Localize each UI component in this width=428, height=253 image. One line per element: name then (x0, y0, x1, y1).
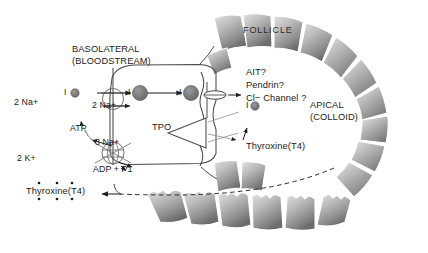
apical-label-line2: (COLLOID) (310, 112, 358, 123)
follicle-cell (214, 160, 241, 192)
follicle-cell (218, 192, 251, 228)
follicle-cell (252, 194, 283, 230)
apical-transporter-label-1: AIT? (246, 67, 266, 78)
two-sodium-symport-label: 2 Na+ (92, 100, 116, 110)
follicle-cell (183, 191, 219, 225)
follicle-label: FOLLICLE (243, 25, 293, 35)
follicle-cell (241, 162, 266, 191)
iodide-label-intracellular-1: I (128, 87, 131, 97)
thyroxine-apical-arrow (243, 128, 247, 140)
iodide-label-intracellular-2: I (179, 87, 182, 97)
thyroxine-apical-label: Thyroxine(T4) (246, 141, 305, 152)
thyroid-follicle-diagram: BASOLATERAL (BLOODSTREAM) APICAL (COLLOI… (0, 0, 428, 253)
apical-iodide-transporter-icon (204, 82, 241, 118)
potassium-in-label: 2 K+ (17, 153, 36, 163)
atp-label: ATP (70, 123, 87, 133)
iodide-molecule-intracellular-1 (132, 85, 147, 100)
follicle-cell (360, 116, 388, 143)
iodide-molecule-intracellular-2 (183, 85, 198, 100)
apical-transporter-label-3: Cl− Channel ? (246, 93, 306, 104)
iodide-label-extracellular: I (64, 87, 67, 97)
basolateral-label-line1: BASOLATERAL (72, 44, 140, 55)
apical-transporter-label-2: Pendrin? (246, 80, 284, 91)
tpo-label: TPO (152, 122, 171, 133)
sodium-out-label: 2 Na+ (14, 97, 38, 107)
three-sodium-label: 3 Na+ (95, 137, 119, 147)
thyroxine-secretion-hook (114, 184, 121, 194)
thyrocyte-cell-outline (110, 65, 216, 167)
thyroxine-secreted-label: Thyroxine(T4) (26, 186, 85, 197)
basolateral-label-line2: (BLOODSTREAM) (72, 56, 151, 67)
adp-pi-label: ADP + P1 (93, 164, 133, 174)
apical-label-line1: APICAL (310, 100, 344, 111)
follicle-cell (285, 195, 315, 230)
iodide-molecule-extracellular (71, 89, 79, 97)
follicle-cell (317, 194, 351, 226)
diagram-canvas (0, 0, 428, 253)
